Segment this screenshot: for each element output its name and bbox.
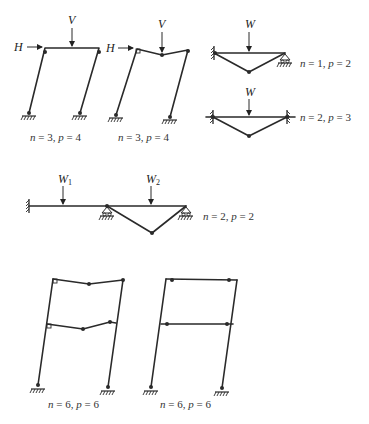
top-beam — [166, 279, 237, 280]
combined-frame-diagram: H V n = 3, p = 4 — [105, 17, 190, 143]
mechanism-label: n = 6, p = 6 — [48, 398, 99, 410]
hinge-icon — [165, 322, 169, 326]
load-w-label: W — [245, 17, 256, 31]
load-w2-label: W2 — [146, 172, 160, 187]
fixed-ground-icon — [214, 392, 229, 396]
hinge-icon — [170, 278, 174, 282]
frame-members — [29, 48, 99, 113]
mechanism-label: n = 6, p = 6 — [160, 398, 211, 410]
continuous-beam-diagram: W1 W2 n = 2, p = 2 — [26, 172, 254, 235]
hinge-icon — [213, 51, 217, 55]
hinge-icon — [97, 50, 101, 54]
hinge-icon — [78, 111, 82, 115]
collapse-shape — [214, 53, 285, 72]
mechanism-label: n = 2, p = 3 — [300, 111, 351, 123]
hinge-icon — [227, 278, 231, 282]
fixed-beam-diagram: W n = 2, p = 3 — [206, 85, 351, 138]
frame-members — [116, 49, 188, 117]
two-storey-sway-diagram: n = 6, p = 6 — [143, 278, 237, 410]
fixed-ground-icon — [162, 120, 177, 124]
hinge-icon — [285, 115, 289, 119]
hinge-icon — [225, 322, 229, 326]
hinge-icon — [36, 383, 40, 387]
propped-beam-diagram: W n = 1, p = 2 — [211, 17, 351, 74]
fixed-ground-icon — [21, 116, 36, 120]
hinge-icon — [150, 231, 154, 235]
hinge-icon — [87, 282, 91, 286]
hinge-icon — [168, 115, 172, 119]
load-v-label: V — [158, 17, 167, 31]
hinge-icon — [81, 327, 85, 331]
mechanism-label: n = 2, p = 2 — [203, 210, 254, 222]
fixed-ground-icon — [143, 391, 158, 395]
hinge-icon — [27, 111, 31, 115]
two-storey-beam-mech-diagram: n = 6, p = 6 — [30, 278, 125, 410]
mechanism-label: n = 3, p = 4 — [118, 131, 169, 143]
collapse-shape — [107, 206, 186, 233]
hinge-icon — [160, 53, 164, 57]
fixed-wall-icon — [26, 199, 29, 213]
right-column — [108, 280, 123, 387]
left-column — [151, 279, 166, 387]
hinge-icon — [108, 320, 112, 324]
right-column — [222, 280, 237, 388]
hinge-icon — [247, 134, 251, 138]
collapse-shape — [213, 117, 287, 136]
roller-support-icon — [178, 207, 193, 220]
load-v-label: V — [68, 13, 77, 27]
load-h-label: H — [13, 40, 24, 54]
mechanism-label: n = 3, p = 4 — [30, 131, 81, 143]
load-h-label: H — [105, 41, 116, 55]
hinge-icon — [106, 385, 110, 389]
hinge-icon — [211, 115, 215, 119]
hinge-icon — [247, 70, 251, 74]
load-w1-label: W1 — [58, 172, 72, 187]
hinge-icon — [43, 50, 47, 54]
hinge-icon — [220, 386, 224, 390]
left-column — [38, 279, 53, 385]
mechanism-label: n = 1, p = 2 — [300, 57, 351, 69]
hinge-icon — [149, 385, 153, 389]
load-w-label: W — [245, 85, 256, 99]
fixed-ground-icon — [72, 116, 87, 120]
hinge-icon — [114, 113, 118, 117]
fixed-ground-icon — [30, 389, 45, 393]
hinge-icon — [121, 278, 125, 282]
fixed-ground-icon — [108, 118, 123, 122]
sway-frame-diagram: H V n = 3, p = 4 — [13, 13, 101, 143]
fixed-ground-icon — [100, 391, 115, 395]
hinge-icon — [186, 49, 190, 53]
